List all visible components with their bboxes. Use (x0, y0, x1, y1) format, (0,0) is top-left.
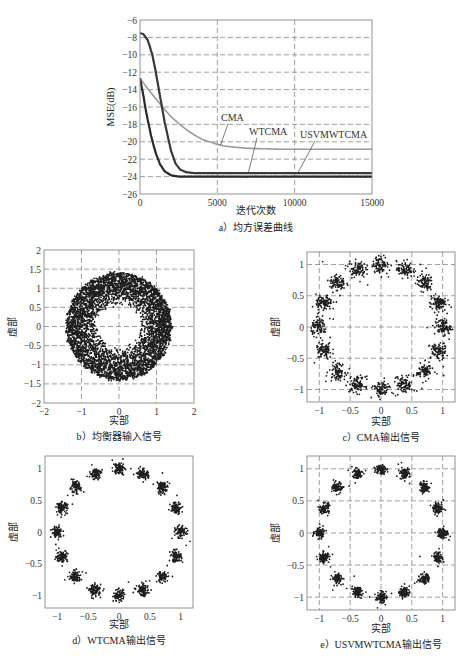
y-tick-label: −6 (127, 16, 137, 26)
y-tick-label: 2 (36, 246, 41, 256)
y-tick-label: −0.5 (287, 561, 304, 571)
y-tick-label: −1 (32, 591, 42, 601)
x-tick-label: 0.5 (406, 614, 418, 624)
panel-caption: c）CMA输出信号 (342, 431, 419, 443)
x-tick-label: −1 (52, 612, 62, 622)
y-tick-label: 0 (37, 528, 42, 538)
y-tick-label: −0.5 (24, 341, 41, 351)
y-tick-label: 0 (36, 322, 41, 332)
x-tick-label: −1 (314, 406, 324, 416)
annotation-leader-line (248, 138, 257, 173)
x-tick-label: 0.5 (144, 612, 156, 622)
y-axis-label: 虚部 (269, 317, 281, 337)
x-tick-label: 0 (379, 406, 384, 416)
x-tick-label: −1 (76, 407, 86, 417)
y-tick-label: −1 (31, 360, 41, 370)
x-tick-label: 1 (440, 406, 445, 416)
x-tick-label: 1 (440, 614, 445, 624)
y-tick-label: −10 (122, 50, 137, 60)
cma-output-scatter: −1−0.500.5110.50−0.5−1实部虚部c）CMA输出信号 (269, 252, 455, 443)
equalizer-input-scatter: −2−101221.510.50−0.5−1−1.5−2实部虚部b）均衡器输入信… (6, 246, 197, 443)
x-tick-label: 5000 (208, 198, 227, 208)
x-axis-label: 实部 (109, 618, 129, 630)
x-tick-label: −0.5 (342, 406, 359, 416)
series-wtcma-line (140, 33, 372, 173)
y-tick-label: −20 (122, 137, 137, 147)
wtcma-output-scatter: −1−0.500.5110.50−0.5−1实部虚部d）WTCMA输出信号 (7, 456, 193, 646)
plot-frame (45, 456, 193, 608)
y-tick-label: −24 (122, 172, 137, 182)
y-tick-label: −0.5 (287, 354, 304, 364)
x-axis-label: 迭代次数 (236, 204, 276, 216)
y-tick-label: −26 (122, 190, 137, 200)
x-tick-label: 15000 (360, 198, 384, 208)
usvmwtcma-output-scatter: −1−0.500.5110.50−0.5−1实部虚部e）USVMWTCMA输出信… (269, 456, 455, 650)
y-axis-label: 虚部 (6, 317, 18, 337)
y-tick-label: 0.5 (292, 291, 304, 301)
x-axis-label: 实部 (371, 622, 391, 634)
annotation-leader-line (298, 141, 315, 173)
y-tick-label: 0 (299, 529, 304, 539)
x-tick-label: 0.5 (406, 406, 418, 416)
y-tick-label: 0.5 (292, 496, 304, 506)
panel-caption: b）均衡器输入信号 (77, 430, 162, 442)
y-axis-label: 虚部 (7, 522, 19, 542)
y-tick-label: −0.5 (25, 559, 42, 569)
y-tick-label: 0 (299, 323, 304, 333)
y-tick-label: −1.5 (24, 379, 41, 389)
scatter-points (50, 458, 191, 603)
panel-caption: d）WTCMA输出信号 (72, 634, 165, 646)
y-tick-label: −8 (127, 33, 137, 43)
annotation-label-cma: CMA (221, 112, 245, 123)
series-noise-band (140, 33, 372, 174)
y-tick-label: −2 (31, 399, 41, 409)
annotation-label-usvmwtcma: USVMWTCMA (300, 129, 368, 140)
y-tick-label: −14 (122, 85, 137, 95)
y-tick-label: −1 (294, 593, 304, 603)
x-tick-label: −0.5 (342, 614, 359, 624)
y-tick-label: 0.5 (29, 303, 41, 313)
y-tick-label: −22 (122, 155, 137, 165)
x-tick-label: 10000 (283, 198, 307, 208)
y-tick-label: 1 (299, 464, 304, 474)
x-tick-label: 1 (178, 612, 183, 622)
panel-caption: e）USVMWTCMA输出信号 (320, 638, 442, 650)
figure-canvas: CMAWTCMAUSVMWTCMA050001000015000−6−8−10−… (0, 0, 470, 663)
x-tick-label: 1 (154, 407, 159, 417)
y-axis-label: 虚部 (269, 523, 281, 543)
annotation-label-wtcma: WTCMA (249, 126, 288, 137)
y-axis-label: MSE(dB) (105, 88, 117, 127)
y-tick-label: −1 (294, 385, 304, 395)
x-tick-label: −2 (39, 407, 49, 417)
x-tick-label: −0.5 (80, 612, 97, 622)
x-axis-label: 实部 (109, 414, 129, 426)
y-tick-label: 1.5 (29, 265, 41, 275)
y-tick-label: 1 (36, 284, 41, 294)
y-tick-label: −16 (122, 103, 137, 113)
panel-caption: a）均方误差曲线 (219, 221, 293, 233)
y-tick-label: −12 (122, 68, 137, 78)
x-tick-label: 2 (192, 407, 197, 417)
mse-curve-chart: CMAWTCMAUSVMWTCMA050001000015000−6−8−10−… (105, 16, 384, 234)
y-tick-label: 0.5 (30, 496, 42, 506)
y-tick-label: −18 (122, 120, 137, 130)
y-tick-label: 1 (37, 464, 42, 474)
x-tick-label: −1 (314, 614, 324, 624)
y-tick-label: 1 (299, 260, 304, 270)
x-axis-label: 实部 (371, 415, 391, 427)
scatter-points (312, 462, 451, 609)
x-tick-label: 0 (138, 198, 143, 208)
